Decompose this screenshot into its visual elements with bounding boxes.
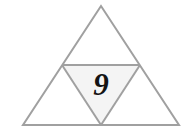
triangle-diagram-canvas: 9 (0, 0, 195, 137)
triangle-diagram: 9 (0, 0, 195, 137)
center-triangle-number-label: 9 (93, 67, 109, 102)
